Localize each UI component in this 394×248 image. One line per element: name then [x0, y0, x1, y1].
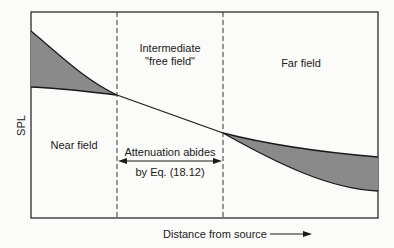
y-axis-label: SPL: [15, 111, 28, 141]
intermediate-label-line1: Intermediate: [118, 42, 222, 55]
far-field-label: Far field: [224, 57, 378, 70]
x-axis-label: Distance from source: [160, 228, 270, 241]
intermediate-label-line2: "free field": [118, 55, 222, 68]
diagram-canvas: [0, 0, 394, 248]
annotation-line2: by Eq. (18.12): [118, 166, 222, 179]
arrow-right-icon: [303, 231, 312, 237]
near-field-shade: [31, 31, 117, 95]
annotation-line1: Attenuation abides: [118, 146, 222, 159]
far-field-shade: [223, 133, 378, 191]
near-field-label: Near field: [31, 139, 117, 152]
free-field-line: [117, 95, 223, 133]
